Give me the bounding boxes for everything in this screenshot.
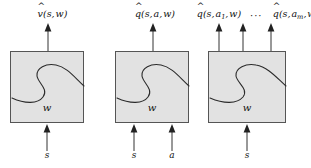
input-label-state-1: s: [0, 150, 94, 160]
q-hat-symbol: ^q: [135, 8, 141, 19]
output-arrow-3b: [238, 22, 248, 52]
output-label-v-hat: ^v(s, w): [0, 8, 105, 19]
input-label-state-2: s: [119, 150, 149, 160]
network-squiggle-icon: [116, 52, 190, 124]
output-label-q-hat-a1: ^q(s, a1, w): [186, 8, 252, 21]
output-arrow-3c: [266, 22, 276, 52]
output-arrow-3a: [214, 22, 224, 52]
output-label-q-hat-am: ^q(s, am, w): [263, 8, 311, 21]
figure-canvas: ^v(s, w) w s ^q(s, a, w): [0, 0, 311, 168]
hat-accent-icon: ^: [38, 2, 43, 11]
network-box-2: w: [115, 51, 189, 123]
output-arrow-1: [43, 22, 53, 52]
input-arrow-action-2: [167, 123, 177, 151]
weight-label-2: w: [116, 102, 188, 113]
hat-accent-icon: ^: [197, 2, 203, 11]
output-arrow-2: [148, 22, 158, 52]
subscript-m: m: [297, 13, 303, 21]
q-hat-symbol-am: ^q: [273, 8, 279, 19]
input-arrow-state-2: [129, 123, 139, 151]
input-arrow-state-3: [242, 123, 252, 151]
input-arrow-state-1: [42, 123, 52, 151]
panel-state-value-network: ^v(s, w) w s: [0, 0, 105, 168]
q-args-a1: (s, a1, w): [203, 8, 241, 19]
q-args-am: (s, am, w): [279, 8, 311, 19]
input-label-action-2: a: [157, 150, 187, 160]
v-args: (s, w): [43, 8, 67, 19]
input-label-state-3: s: [232, 150, 262, 160]
q-hat-symbol-a1: ^q: [197, 8, 203, 19]
v-hat-symbol: ^v: [38, 8, 43, 19]
weight-label-3: w: [209, 102, 285, 113]
network-box-3: w: [208, 51, 286, 123]
panel-state-action-value-network: ^q(s, a, w) w s a: [105, 0, 205, 168]
q-args: (s, a, w): [141, 8, 175, 19]
network-box-1: w: [10, 51, 84, 123]
weight-label-1: w: [11, 102, 83, 113]
hat-accent-icon: ^: [273, 2, 279, 11]
subscript-1: 1: [221, 13, 225, 21]
network-squiggle-icon: [209, 52, 287, 124]
output-ellipsis: ···: [250, 10, 263, 21]
panel-action-out-value-network: ^q(s, a1, w) ··· ^q(s, am, w) w: [205, 0, 311, 168]
network-squiggle-icon: [11, 52, 85, 124]
hat-accent-icon: ^: [135, 2, 141, 11]
